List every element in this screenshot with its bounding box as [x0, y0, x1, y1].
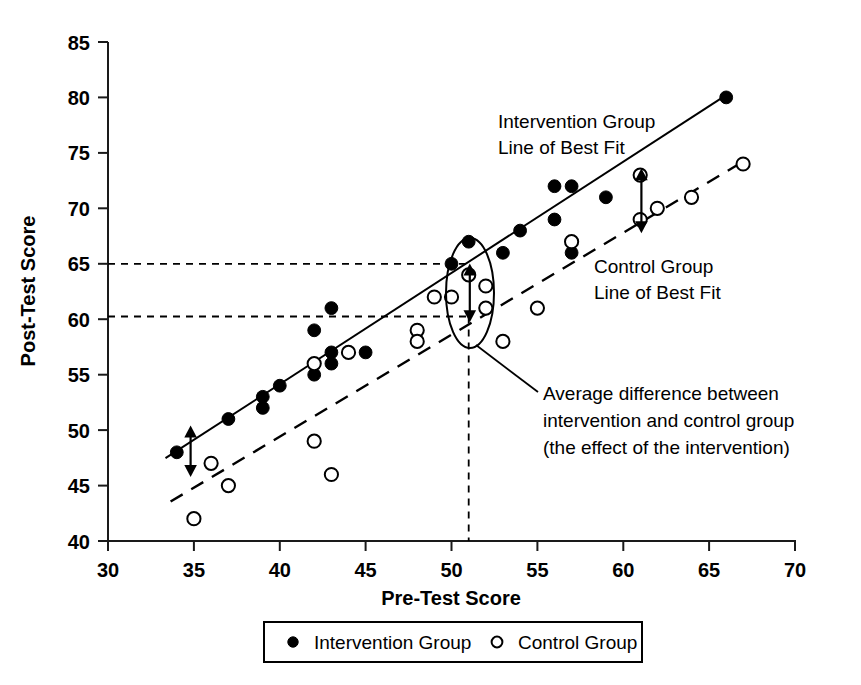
data-point-control: [428, 290, 441, 303]
x-tick-label: 55: [526, 559, 548, 581]
scatter-plot-figure: 85 80 75 70 65 60 55 50 45 40 30 35 40 4…: [0, 0, 861, 685]
x-tick-label: 50: [440, 559, 462, 581]
annotation-line: Intervention Group: [498, 111, 655, 132]
data-point-control: [187, 512, 200, 525]
annotation-line: intervention and control group: [543, 410, 794, 431]
y-tick-label: 40: [68, 531, 90, 553]
data-point-intervention: [222, 413, 235, 426]
data-point-intervention: [548, 213, 561, 226]
legend-label: Control Group: [518, 632, 637, 653]
x-axis-title: Pre-Test Score: [381, 587, 521, 609]
legend-label: Intervention Group: [314, 632, 471, 653]
data-point-control: [222, 479, 235, 492]
data-point-intervention: [565, 180, 578, 193]
data-point-control: [496, 335, 509, 348]
y-tick-label: 60: [68, 309, 90, 331]
data-point-control: [479, 302, 492, 315]
data-point-intervention: [600, 191, 613, 204]
data-point-control: [651, 202, 664, 215]
effect-callout: Average difference between intervention …: [543, 383, 794, 458]
data-point-intervention: [497, 246, 510, 259]
data-point-control: [479, 279, 492, 292]
annotation-line: Average difference between: [543, 383, 779, 404]
data-point-control: [308, 435, 321, 448]
x-tick-labels: 30 35 40 45 50 55 60 65 70: [97, 559, 806, 581]
data-point-intervention: [514, 224, 527, 237]
annotation-line: (the effect of the intervention): [543, 437, 790, 458]
y-tick-label: 70: [68, 198, 90, 220]
data-point-control: [737, 157, 750, 170]
data-point-control: [308, 357, 321, 370]
data-point-control: [411, 335, 424, 348]
x-tick-label: 60: [612, 559, 634, 581]
data-point-intervention: [548, 180, 561, 193]
y-tick-label: 50: [68, 420, 90, 442]
chart-canvas: 85 80 75 70 65 60 55 50 45 40 30 35 40 4…: [0, 0, 861, 685]
data-point-control: [205, 457, 218, 470]
y-tick-label: 55: [68, 364, 90, 386]
y-tick-label: 65: [68, 253, 90, 275]
y-axis-title: Post-Test Score: [17, 216, 39, 367]
filled-circle-icon: [288, 637, 298, 647]
data-point-intervention: [359, 346, 372, 359]
annotation-line: Line of Best Fit: [498, 137, 625, 158]
annotation-line: Control Group: [594, 256, 713, 277]
y-tick-label: 85: [68, 32, 90, 54]
figure-background: [0, 0, 861, 685]
legend: Intervention Group Control Group: [264, 622, 642, 662]
x-tick-label: 35: [183, 559, 205, 581]
data-point-intervention: [325, 302, 338, 315]
data-point-control: [685, 191, 698, 204]
annotation-line: Line of Best Fit: [594, 282, 721, 303]
data-point-control: [565, 235, 578, 248]
y-tick-label: 75: [68, 142, 90, 164]
data-point-control: [342, 346, 355, 359]
x-tick-label: 45: [354, 559, 376, 581]
data-point-intervention: [325, 357, 338, 370]
x-tick-label: 30: [97, 559, 119, 581]
x-tick-label: 70: [784, 559, 806, 581]
y-tick-label: 80: [68, 87, 90, 109]
y-tick-label: 45: [68, 475, 90, 497]
x-tick-label: 65: [698, 559, 720, 581]
open-circle-icon: [492, 637, 503, 648]
data-point-intervention: [170, 446, 183, 459]
legend-item-intervention: Intervention Group: [288, 632, 472, 653]
data-point-intervention: [720, 91, 733, 104]
data-point-control: [325, 468, 338, 481]
data-point-intervention: [308, 324, 321, 337]
data-point-intervention: [273, 379, 286, 392]
data-point-intervention: [256, 402, 269, 415]
x-tick-label: 40: [269, 559, 291, 581]
data-point-control: [531, 302, 544, 315]
